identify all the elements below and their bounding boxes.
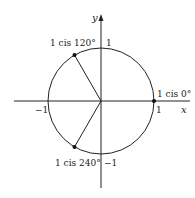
tick-y-neg: −1 bbox=[104, 158, 117, 168]
label-cis-240: 1 cis 240° bbox=[55, 158, 101, 168]
y-axis-label: y bbox=[91, 12, 98, 23]
label-cis-120: 1 cis 120° bbox=[50, 38, 96, 48]
y-axis-arrow-icon bbox=[99, 14, 104, 21]
tick-x-neg: −1 bbox=[35, 105, 48, 115]
radius-120 bbox=[75, 55, 102, 101]
tick-x-pos: 1 bbox=[156, 105, 162, 115]
label-cis-0: 1 cis 0° bbox=[157, 89, 191, 99]
point-cis-0 bbox=[152, 99, 156, 103]
point-cis-240 bbox=[73, 145, 77, 149]
point-cis-120 bbox=[73, 53, 77, 57]
tick-y-pos: 1 bbox=[106, 38, 112, 48]
radius-240 bbox=[75, 101, 102, 147]
unit-circle-diagram: y x 1 −1 1 −1 1 cis 120° 1 cis 0° 1 cis … bbox=[0, 0, 195, 198]
x-axis-label: x bbox=[181, 104, 187, 115]
